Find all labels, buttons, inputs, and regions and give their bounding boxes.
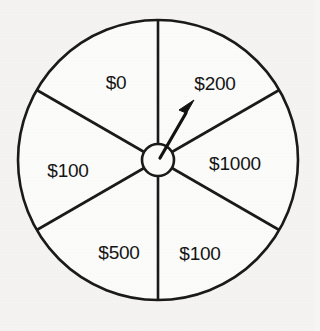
sector-label-1000: $1000 <box>209 154 261 173</box>
wheel-hub-circle[interactable] <box>142 144 174 176</box>
sector-label-0: $0 <box>106 73 127 92</box>
sector-label-200: $200 <box>194 74 235 93</box>
sector-label-100-left: $100 <box>47 161 88 180</box>
sector-label-100-bottom-right: $100 <box>179 244 220 263</box>
sector-label-500: $500 <box>98 243 139 262</box>
